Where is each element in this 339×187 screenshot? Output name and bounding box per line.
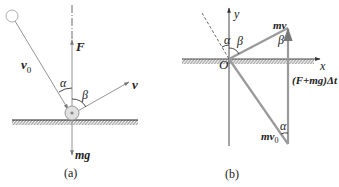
alpha-label: α xyxy=(60,77,66,89)
alpha-top-label: α xyxy=(224,34,230,46)
x-axis-label: x xyxy=(320,60,325,72)
y-axis-label: y xyxy=(234,8,239,20)
initial-velocity-label: v0 xyxy=(21,58,31,75)
alpha-bottom-label: α xyxy=(280,120,286,132)
origin-label: O xyxy=(219,58,228,71)
initial-momentum-label: mv0 xyxy=(261,131,278,145)
panel-a xyxy=(6,5,138,155)
ground-hatching-b xyxy=(182,59,314,64)
caption-b: (b) xyxy=(225,168,239,180)
ball-center xyxy=(70,111,73,114)
force-label: F xyxy=(76,40,85,53)
initial-ball-outline xyxy=(6,10,18,22)
beta-top-label: β xyxy=(237,35,243,47)
ground-hatching-a xyxy=(12,120,138,125)
beta-right-label: β xyxy=(278,34,284,46)
caption-a: (a) xyxy=(64,167,77,179)
final-velocity-label: v xyxy=(132,78,138,91)
impulse-label: (F+mg)Δt xyxy=(292,75,337,86)
gravity-label: mg xyxy=(75,149,90,161)
final-momentum-label: mv xyxy=(273,20,286,31)
beta-label: β xyxy=(82,89,88,101)
physics-diagram xyxy=(0,0,339,187)
beta-arc-origin xyxy=(229,48,239,54)
